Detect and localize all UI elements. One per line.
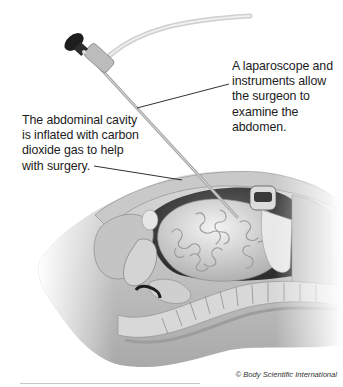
callout-laparoscope: A laparoscope and instruments allow the … [232,59,343,135]
callout-abdominal-cavity: The abdominal cavity is inflated with ca… [22,113,147,174]
divider-rule [20,383,200,384]
laparoscopy-figure: A laparoscope and instruments allow the … [0,0,343,387]
image-credit: © Body Scientific International [236,370,337,379]
